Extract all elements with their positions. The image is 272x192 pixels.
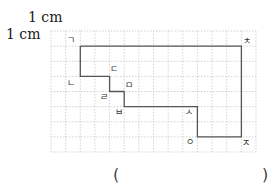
vertex-label-ch: ㅊ [243,36,251,46]
vertex-label-d: ㄷ [110,64,118,74]
vertex-label-b: ㅂ [115,107,123,117]
vertex-label-r: ㄹ [100,92,108,102]
grid-lines [51,31,256,152]
answer-open-paren: ( [113,165,119,184]
answer-blank[interactable] [125,166,255,184]
vertex-label-m: ㅁ [125,80,133,90]
answer-close-paren: ) [262,165,268,184]
vertex-label-n: ㄴ [67,78,75,88]
vertex-label-j: ㅈ [242,138,250,148]
vertex-label-s: ㅅ [185,107,193,117]
vertex-label-o: ㅇ [186,137,194,147]
vertex-label-g: ㄱ [67,35,75,45]
grid-diagram: ㄱ ㄴ ㄷ ㄹ ㅁ ㅂ ㅅ ㅇ ㅈ ㅊ [0,0,272,192]
